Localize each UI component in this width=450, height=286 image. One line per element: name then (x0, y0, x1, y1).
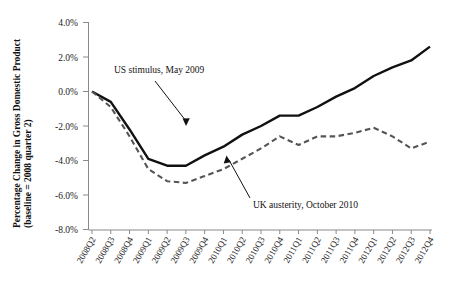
annotation-us-stimulus: US stimulus, May 2009 (114, 65, 205, 126)
y-tick-label: 2.0% (58, 53, 78, 63)
y-tick-label: -6.0% (55, 191, 78, 201)
y-tick-label: -8.0% (55, 225, 78, 235)
y-tick-group: 4.0% 2.0% 0.0% -2.0% -4.0% -6.0% (55, 18, 88, 235)
x-tick-group: 2008Q22008Q32008Q42009Q12009Q22009Q32009… (75, 230, 436, 265)
y-tick-label: 4.0% (58, 18, 78, 28)
annotation-uk-austerity: UK austerity, October 2010 (224, 156, 358, 211)
y-tick-6: -8.0% (55, 225, 88, 235)
y-tick-label: 0.0% (58, 87, 78, 97)
y-tick-1: 2.0% (58, 53, 88, 63)
x-tick-label: 2012Q4 (413, 235, 436, 266)
annotation-uk-austerity-label: UK austerity, October 2010 (253, 200, 358, 210)
y-axis-title-line1: Percentage Change in Gross Domestic Prod… (12, 38, 22, 228)
gdp-line-chart: Percentage Change in Gross Domestic Prod… (0, 0, 450, 286)
chart-container: Percentage Change in Gross Domestic Prod… (0, 0, 450, 286)
y-tick-2: 0.0% (58, 87, 88, 97)
annotation-uk-austerity-leader (229, 160, 250, 198)
annotation-us-stimulus-leader (155, 81, 186, 121)
y-axis-title-line2: (baseline = 2008 quarter 2) (23, 119, 34, 228)
y-tick-0: 4.0% (58, 18, 88, 28)
y-tick-4: -4.0% (55, 156, 88, 166)
annotation-us-stimulus-label: US stimulus, May 2009 (114, 65, 205, 75)
series-line-2 (92, 92, 430, 183)
y-tick-label: -4.0% (55, 156, 78, 166)
arrowhead-icon (224, 156, 231, 164)
arrowhead-icon (183, 118, 190, 126)
y-tick-5: -6.0% (55, 191, 88, 201)
y-tick-3: -2.0% (55, 122, 88, 132)
y-tick-label: -2.0% (55, 122, 78, 132)
